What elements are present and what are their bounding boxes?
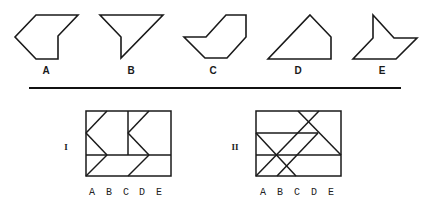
composite-figures: IABCDEIIABCDE	[64, 111, 341, 198]
option-label: A	[42, 65, 49, 76]
column-label: E	[156, 187, 162, 198]
answer-options: ABCDE	[15, 15, 417, 76]
column-label: D	[139, 187, 145, 198]
option-shape	[100, 15, 163, 58]
option-c: C	[184, 15, 246, 76]
option-shape	[353, 15, 417, 59]
figure-line	[86, 155, 107, 176]
figure-numeral: II	[231, 142, 239, 152]
option-d: D	[268, 15, 331, 76]
option-label: D	[294, 65, 301, 76]
puzzle-canvas: ABCDE IABCDEIIABCDE	[0, 0, 428, 204]
option-a: A	[15, 15, 78, 76]
column-label: C	[123, 187, 129, 198]
column-label: A	[89, 187, 95, 198]
column-label: E	[328, 187, 334, 198]
figure-line	[128, 155, 149, 176]
option-shape	[268, 15, 331, 59]
option-label: C	[209, 65, 216, 76]
option-shape	[15, 15, 78, 59]
figure-line	[128, 133, 149, 155]
figure-line	[128, 111, 149, 133]
figure-i: IABCDE	[64, 111, 171, 198]
column-label: D	[311, 187, 317, 198]
option-shape	[184, 15, 246, 58]
column-label: B	[277, 187, 283, 198]
option-label: E	[379, 65, 386, 76]
figure-numeral: I	[64, 142, 68, 152]
column-label: C	[294, 187, 300, 198]
column-label: B	[106, 187, 112, 198]
option-label: B	[127, 65, 134, 76]
figure-ii: IIABCDE	[231, 111, 341, 198]
figure-line	[86, 111, 107, 133]
option-e: E	[353, 15, 417, 76]
figure-frame	[256, 111, 341, 176]
figure-line	[86, 133, 107, 155]
option-b: B	[100, 15, 163, 76]
column-label: A	[260, 187, 266, 198]
